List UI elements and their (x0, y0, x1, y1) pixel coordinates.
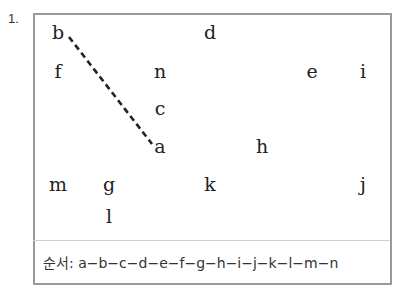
letter-i: i (360, 62, 366, 81)
letter-m: m (49, 175, 67, 194)
letter-k: k (204, 175, 216, 194)
sequence-label: 순서: (43, 255, 74, 271)
letter-a: a (154, 137, 165, 156)
sequence-row: 순서: a−b−c−d−e−f−g−h−i−j−k−l−m−n (43, 252, 338, 272)
letter-n: n (154, 62, 166, 81)
sequence-text: a−b−c−d−e−f−g−h−i−j−k−l−m−n (74, 255, 339, 271)
letter-f: f (54, 62, 61, 81)
letter-l: l (106, 207, 112, 226)
letter-g: g (103, 175, 115, 194)
letter-c: c (155, 99, 166, 118)
letter-j: j (360, 175, 366, 194)
letter-b: b (52, 23, 64, 42)
letter-h: h (256, 137, 268, 156)
dashed-connection-line (0, 0, 397, 290)
letter-d: d (204, 23, 216, 42)
letter-e: e (306, 62, 317, 81)
